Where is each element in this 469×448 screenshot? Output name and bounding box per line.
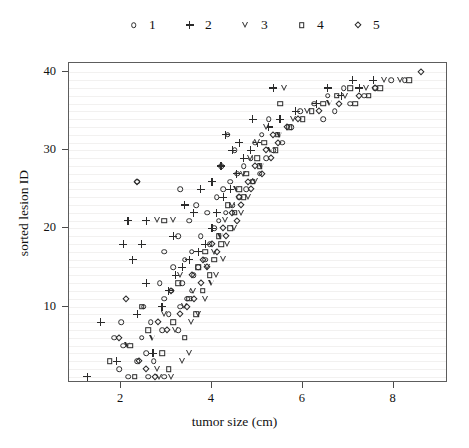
data-point-series-3 (155, 366, 161, 372)
data-point-series-1 (236, 194, 242, 200)
data-point-series-5 (199, 256, 206, 263)
data-point-series-1 (232, 148, 238, 154)
data-point-series-1 (218, 163, 224, 169)
data-point-series-4 (309, 109, 315, 115)
x-tick-label: 2 (105, 391, 135, 406)
data-point-series-3 (218, 233, 224, 239)
data-point-series-1 (211, 226, 217, 232)
data-point-series-2 (172, 271, 180, 279)
data-point-series-2 (276, 115, 284, 123)
data-point-series-1 (225, 132, 231, 138)
data-point-series-5 (247, 186, 254, 193)
data-point-series-4 (200, 288, 206, 294)
data-point-series-2 (226, 185, 234, 193)
data-point-series-3 (259, 163, 265, 169)
data-point-series-3 (277, 132, 283, 138)
y-axis-title: sorted lesion ID (16, 113, 32, 313)
data-point-series-5 (208, 240, 215, 247)
data-point-series-3 (245, 194, 251, 200)
data-point-series-4 (334, 93, 340, 99)
data-point-series-1 (139, 335, 145, 341)
x-tick-label: 4 (196, 391, 226, 406)
data-point-series-4 (162, 218, 168, 224)
data-point-series-1 (112, 335, 118, 341)
data-point-series-3 (343, 93, 349, 99)
data-point-series-2 (222, 131, 230, 139)
data-point-series-5 (122, 295, 129, 302)
data-point-series-2 (201, 240, 209, 248)
data-point-series-5 (152, 373, 159, 380)
data-point-series-1 (168, 288, 174, 294)
x-tick-label: 8 (378, 391, 408, 406)
legend-item-4[interactable]: 4 (295, 12, 324, 38)
data-point-series-1 (180, 280, 186, 286)
data-point-series-1 (250, 179, 256, 185)
data-point-series-3 (182, 304, 188, 310)
data-point-series-2 (208, 178, 216, 186)
data-point-series-1 (177, 187, 183, 193)
data-point-series-1 (202, 257, 208, 263)
data-point-series-4 (300, 116, 306, 122)
chart-legend: 12345 (0, 12, 469, 38)
data-point-series-2 (158, 303, 166, 311)
data-point-series-5 (188, 272, 195, 279)
data-point-series-5 (197, 279, 204, 286)
data-point-series-1 (193, 202, 199, 208)
data-point-series-2 (240, 154, 248, 162)
data-point-series-2 (292, 107, 300, 115)
data-point-series-1 (184, 296, 190, 302)
data-point-series-5 (190, 295, 197, 302)
data-point-series-3 (327, 101, 333, 107)
data-point-series-1 (166, 312, 172, 318)
data-point-series-1 (311, 101, 317, 107)
data-point-series-2 (119, 240, 127, 248)
data-point-series-2 (169, 232, 177, 240)
data-point-series-4 (320, 101, 326, 107)
data-point-series-3 (150, 335, 156, 341)
data-point-series-3 (229, 202, 235, 208)
data-point-series-3 (195, 311, 201, 317)
data-point-series-2 (133, 310, 141, 318)
data-point-series-3 (202, 296, 208, 302)
data-point-series-2 (185, 256, 193, 264)
data-point-series-2 (249, 115, 257, 123)
y-tick (62, 306, 68, 307)
data-point-series-5 (220, 225, 227, 232)
data-point-series-1 (151, 358, 157, 364)
data-point-series-1 (280, 140, 286, 146)
data-point-series-2 (208, 224, 216, 232)
data-point-series-3 (381, 77, 387, 83)
legend-item-5[interactable]: 5 (351, 12, 380, 38)
data-point-series-1 (264, 155, 270, 161)
data-point-series-5 (236, 194, 243, 201)
data-point-series-2 (219, 193, 227, 201)
data-point-series-4 (175, 280, 181, 286)
data-point-series-2 (217, 162, 225, 170)
data-point-series-3 (211, 249, 217, 255)
data-point-series-4 (275, 132, 281, 138)
data-point-series-4 (261, 140, 267, 146)
data-point-series-4 (273, 148, 279, 154)
data-point-series-2 (194, 248, 202, 256)
legend-item-3[interactable]: 3 (239, 12, 268, 38)
data-point-series-1 (125, 374, 131, 380)
data-point-series-1 (191, 272, 197, 278)
legend-label: 1 (149, 18, 156, 32)
data-point-series-5 (267, 155, 274, 162)
data-point-series-1 (241, 163, 247, 169)
data-point-series-4 (352, 101, 358, 107)
data-point-series-3 (223, 218, 229, 224)
data-point-series-3 (238, 210, 244, 216)
plot-area (68, 62, 447, 382)
data-point-series-1 (216, 218, 222, 224)
legend-item-1[interactable]: 1 (127, 12, 156, 38)
data-point-series-2 (265, 123, 273, 131)
data-point-series-5 (183, 303, 190, 310)
data-point-series-1 (159, 327, 165, 333)
data-point-series-4 (207, 272, 213, 278)
data-point-series-3 (232, 225, 238, 231)
data-point-series-1 (325, 93, 331, 99)
data-point-series-5 (115, 334, 122, 341)
data-point-series-3 (225, 241, 231, 247)
legend-item-2[interactable]: 2 (183, 12, 212, 38)
